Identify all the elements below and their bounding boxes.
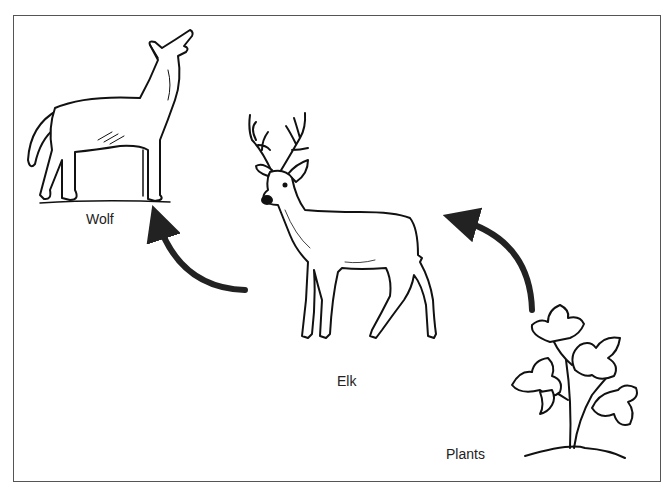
- plant-drawing: [512, 305, 637, 458]
- wolf-drawing: [28, 30, 193, 203]
- plants-label: Plants: [446, 446, 485, 462]
- arrow-elk-to-wolf: [158, 222, 245, 290]
- elk-label: Elk: [337, 373, 356, 389]
- wolf-label: Wolf: [86, 211, 114, 227]
- food-chain-illustration: [0, 0, 672, 500]
- arrow-plants-to-elk: [460, 220, 532, 310]
- elk-drawing: [249, 113, 436, 338]
